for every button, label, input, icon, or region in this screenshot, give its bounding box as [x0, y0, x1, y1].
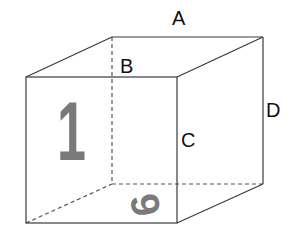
edge-top-left-diagonal — [26, 37, 112, 77]
cube-diagram: 1 6 A B C D — [0, 0, 294, 232]
bottom-face-number: 6 — [121, 190, 168, 220]
front-face-number: 1 — [57, 84, 86, 178]
edge-top-right-diagonal — [177, 37, 263, 77]
label-C: C — [181, 129, 195, 151]
label-B: B — [120, 55, 133, 77]
cube-svg: 1 6 A B C D — [0, 0, 294, 232]
edge-labels: A B C D — [120, 7, 280, 151]
hidden-edge-bottom-left-diagonal — [26, 184, 112, 223]
label-D: D — [266, 99, 280, 121]
edge-bottom-right-diagonal — [177, 184, 263, 223]
face-numbers: 1 6 — [57, 84, 169, 219]
label-A: A — [172, 7, 186, 29]
